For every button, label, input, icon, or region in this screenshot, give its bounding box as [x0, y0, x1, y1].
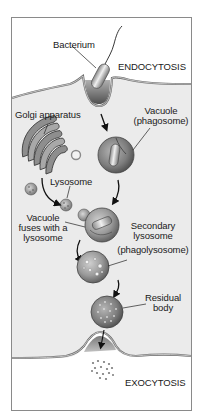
secondary-lysosome: [77, 251, 109, 283]
label-exocytosis: EXOCYTOSIS: [125, 378, 186, 388]
label-vacuole-fuses: Vacuole fuses with a lysosome: [14, 213, 72, 243]
label-lysosome: Lysosome: [50, 177, 92, 187]
label-golgi-apparatus: Golgi apparatus: [15, 110, 81, 120]
label-residual-line2: body: [138, 303, 188, 313]
phagocytosis-diagram: Bacterium ENDOCYTOSIS Golgi apparatus Va…: [0, 0, 201, 415]
label-secondary-lysosome: Secondary lysosome (phagolysosome): [113, 221, 193, 255]
label-vacuole-line2: (phagosome): [131, 116, 191, 126]
label-secondary-line3: (phagolysosome): [113, 245, 193, 255]
label-fuses-line3: lysosome: [14, 233, 72, 243]
label-secondary-line2: lysosome: [113, 231, 193, 241]
label-vacuole: Vacuole (phagosome): [131, 106, 191, 126]
label-residual-body: Residual body: [138, 293, 188, 313]
transport-vesicle: [72, 151, 81, 160]
residual-body: [91, 296, 123, 328]
primary-lysosome: [60, 199, 72, 211]
label-bacterium: Bacterium: [53, 40, 95, 50]
phagosome: [98, 137, 134, 173]
lysosome-vesicle: [25, 183, 37, 195]
label-endocytosis: ENDOCYTOSIS: [118, 62, 186, 72]
